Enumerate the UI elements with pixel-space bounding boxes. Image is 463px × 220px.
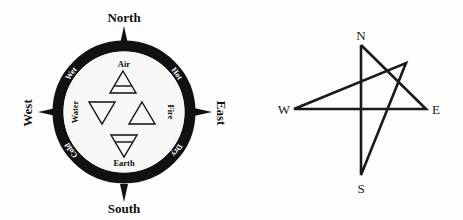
label-south: South <box>108 201 141 216</box>
label-earth: Earth <box>113 158 135 168</box>
label-west: West <box>20 99 35 127</box>
label-w: W <box>278 102 291 117</box>
south-point <box>120 184 128 202</box>
label-s: S <box>357 181 364 196</box>
label-east: East <box>214 101 229 126</box>
element-compass: Wet Hot Dry Cold North South West East A… <box>20 10 229 216</box>
label-air: Air <box>118 59 131 69</box>
label-e: E <box>432 102 440 117</box>
label-fire: Fire <box>166 105 176 120</box>
label-n: N <box>356 28 366 43</box>
figure: Wet Hot Dry Cold North South West East A… <box>0 0 463 220</box>
east-point <box>194 108 212 116</box>
label-north: North <box>107 10 141 25</box>
line-compass: N S W E <box>278 28 440 196</box>
label-water: Water <box>70 100 80 123</box>
